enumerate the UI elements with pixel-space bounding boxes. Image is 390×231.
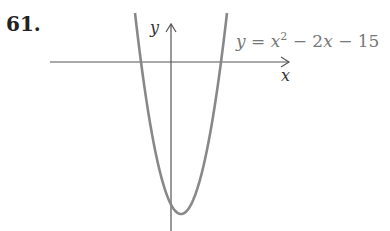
parabola-curve bbox=[135, 13, 227, 214]
x-axis-label: x bbox=[281, 66, 290, 85]
y-axis-label: y bbox=[150, 18, 159, 37]
equation-label: y = x2 − 2x − 15 bbox=[236, 30, 379, 51]
